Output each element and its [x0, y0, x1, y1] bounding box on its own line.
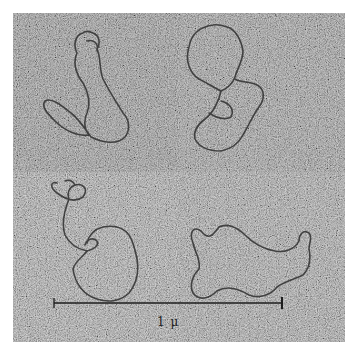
- dna-molecules: [13, 13, 345, 342]
- scale-bar: [53, 297, 283, 309]
- dna-molecule-bottom-right: [191, 225, 310, 298]
- dna-molecule-bottom-left: [52, 183, 138, 301]
- dna-molecule-top-right: [187, 25, 243, 91]
- micrograph-panel: [13, 13, 345, 342]
- dna-molecule-top-left: [44, 32, 129, 143]
- scale-bar-label: 1 μ: [157, 315, 179, 329]
